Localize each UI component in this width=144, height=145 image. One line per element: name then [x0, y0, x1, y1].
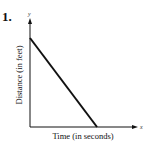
- y-axis-arrow-icon: [28, 18, 32, 24]
- y-axis-title: Distance (in feet): [14, 45, 24, 104]
- x-axis-title: Time (in seconds): [52, 131, 113, 141]
- data-line: [30, 38, 97, 127]
- x-axis-arrow-icon: [132, 125, 138, 129]
- line-chart: y x Distance (in feet) Time (in seconds): [0, 0, 144, 145]
- x-axis-letter: x: [139, 124, 143, 130]
- y-axis-letter: y: [27, 11, 31, 17]
